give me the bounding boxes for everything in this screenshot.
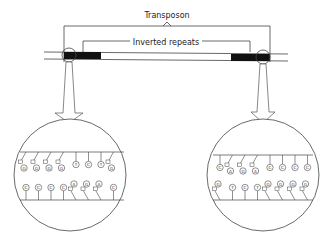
svg-text:A: A (73, 182, 76, 187)
transposon-label: Transposon (143, 11, 189, 20)
svg-text:C: C (219, 165, 222, 170)
svg-text:G: G (304, 182, 307, 187)
svg-text:C: C (281, 165, 284, 170)
svg-text:C: C (244, 185, 247, 190)
svg-text:A: A (254, 169, 257, 174)
left-detail-circle: GGGGTCTG CCCCAGAC (14, 119, 126, 231)
svg-text:T: T (255, 185, 259, 190)
left-zoom-arrow (55, 62, 83, 123)
svg-text:G: G (35, 166, 38, 171)
svg-text:G: G (60, 166, 63, 171)
transposon-diagram: Transposon Inverted repeats GGGGTCTG CCC… (0, 0, 324, 245)
inverted-repeats-label: Inverted repeats (133, 38, 199, 47)
svg-text:G: G (241, 169, 244, 174)
svg-text:T: T (99, 162, 103, 167)
svg-text:C: C (62, 185, 65, 190)
svg-text:G: G (22, 166, 25, 171)
svg-text:C: C (112, 185, 115, 190)
svg-text:G: G (47, 166, 50, 171)
svg-text:G: G (279, 182, 282, 187)
svg-text:C: C (37, 185, 40, 190)
svg-text:A: A (98, 182, 101, 187)
svg-text:G: G (110, 166, 113, 171)
svg-text:G: G (85, 182, 88, 187)
left-inverted-repeat (64, 52, 101, 59)
svg-text:C: C (269, 165, 272, 170)
svg-text:G: G (216, 182, 219, 187)
right-zoom-arrow (251, 64, 275, 123)
svg-text:C: C (25, 185, 28, 190)
svg-text:G: G (291, 182, 294, 187)
svg-text:C: C (294, 165, 297, 170)
svg-text:T: T (74, 162, 78, 167)
right-detail-circle: CAGACCCC GTCTGGGG (207, 119, 319, 231)
svg-text:C: C (87, 162, 90, 167)
svg-text:C: C (50, 185, 53, 190)
svg-text:T: T (230, 185, 234, 190)
svg-text:A: A (229, 169, 232, 174)
svg-text:C: C (306, 165, 309, 170)
right-inverted-repeat (231, 54, 270, 61)
svg-text:G: G (266, 182, 269, 187)
